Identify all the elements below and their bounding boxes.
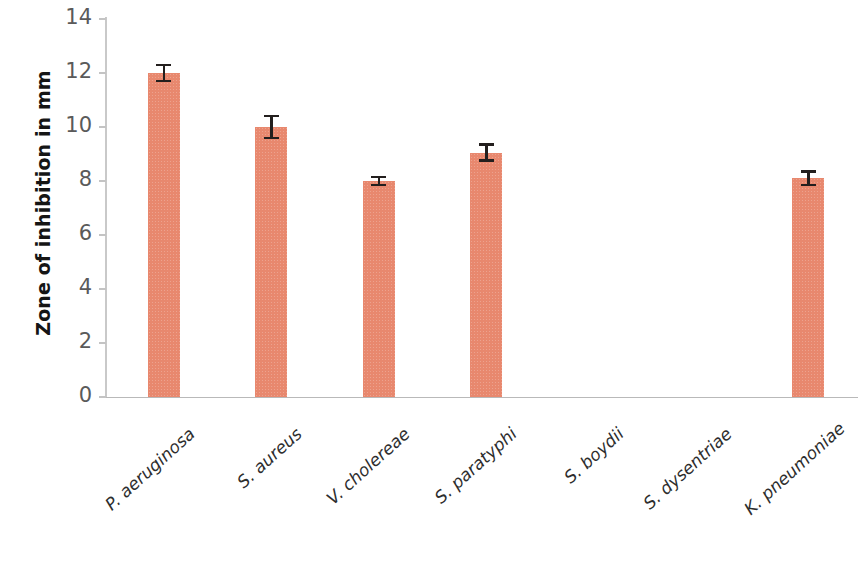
y-axis-tick-label: 14 [32,5,92,29]
y-axis-tick [99,288,106,290]
error-bar-cap-bottom [371,184,386,187]
y-axis-tick-label: 8 [32,167,92,191]
y-axis-tick-label: 10 [32,113,92,137]
y-axis-tick [99,180,106,182]
error-bar-cap-bottom [264,137,279,140]
y-axis-tick [99,18,106,20]
y-axis-tick-label: 6 [32,221,92,245]
x-axis-category-label: S. aureus [203,424,306,519]
y-axis-tick [99,126,106,128]
error-bar [371,176,386,187]
y-axis-tick-label: 12 [32,59,92,83]
y-axis-tick [99,396,106,398]
error-bar-cap-bottom [801,184,816,187]
error-bar-stem [270,115,273,139]
bar [363,181,395,397]
bar-chart: Zone of inhibition in mm 02468101214 P. … [0,0,864,565]
y-axis-tick [99,72,106,74]
error-bar-cap-bottom [479,159,494,162]
y-axis-tick-label: 4 [32,275,92,299]
error-bar-cap-top [371,176,386,179]
x-axis-category-label: S. dysentriae [633,424,736,519]
x-axis-category-label: P. aeruginosa [96,424,199,519]
bar [148,73,180,397]
y-axis-tick-label: 0 [32,383,92,407]
error-bar-cap-top [801,170,816,173]
y-axis-tick [99,234,106,236]
error-bar [479,143,494,162]
x-axis-category-label: K. pneumoniae [740,424,843,519]
error-bar-cap-bottom [156,80,171,83]
error-bar [801,170,816,186]
x-axis-category-label: S. boydii [526,424,629,519]
error-bar-cap-top [479,143,494,146]
error-bar-cap-top [156,64,171,67]
bar [470,153,502,397]
y-axis-tick-label: 2 [32,329,92,353]
x-axis-category-label: S. paratyphi [418,424,521,519]
error-bar [156,64,171,83]
y-axis-tick-labels: 02468101214 [28,0,92,565]
y-axis-tick [99,342,106,344]
bar [255,127,287,397]
plot-area [106,19,858,397]
error-bar [264,115,279,139]
bar [792,178,824,397]
error-bar-cap-top [264,115,279,118]
x-axis-category-label: V. cholereae [311,424,414,519]
